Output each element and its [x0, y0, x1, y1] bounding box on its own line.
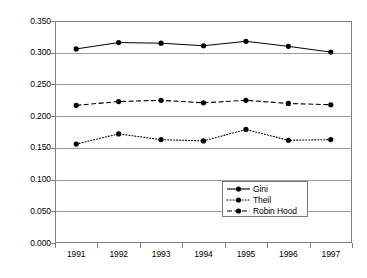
x-axis-tick-label: 1991 [53, 249, 99, 259]
x-axis-labels: 1991199219931994199519961997 [55, 249, 352, 263]
legend-label: Gini [251, 184, 268, 194]
legend-item-gini: Gini [226, 184, 304, 194]
x-axis-tick-mark [182, 243, 183, 248]
y-axis-tick-label: 0.250 [11, 80, 51, 89]
line-chart: 0.3500.3000.2500.2000.1500.1000.0500.000… [0, 0, 367, 278]
x-axis-tick-mark [310, 243, 311, 248]
gridline [56, 53, 351, 54]
y-axis-tick-mark [50, 180, 55, 181]
x-axis-tick-mark [225, 243, 226, 248]
y-axis-labels: 0.3500.3000.2500.2000.1500.1000.0500.000 [8, 21, 51, 243]
chart-legend: GiniTheilRobin Hood [222, 181, 308, 217]
x-axis-tick-mark [97, 243, 98, 248]
x-axis-tick-mark [55, 243, 56, 248]
y-axis-tick-mark [50, 53, 55, 54]
y-axis-tick-label: 0.200 [11, 112, 51, 121]
y-axis-tick-mark [50, 211, 55, 212]
gridline [56, 116, 351, 117]
legend-label: Theil [251, 195, 271, 205]
y-axis-tick-label: 0.000 [11, 239, 51, 248]
x-axis-tick-mark [267, 243, 268, 248]
y-axis-tick-mark [50, 84, 55, 85]
gridline [56, 148, 351, 149]
legend-key-swatch [226, 195, 251, 205]
legend-label: Robin Hood [251, 206, 297, 216]
x-axis-tick-label: 1994 [181, 249, 227, 259]
legend-item-theil: Theil [226, 195, 304, 205]
y-axis-tick-mark [50, 116, 55, 117]
y-axis-tick-mark [50, 21, 55, 22]
x-axis-tick-mark [140, 243, 141, 248]
y-axis-tick-label: 0.350 [11, 17, 51, 26]
y-axis-tick-mark [50, 148, 55, 149]
x-axis-tick-mark [352, 243, 353, 248]
y-axis-tick-label: 0.150 [11, 143, 51, 152]
gridline [56, 84, 351, 85]
x-axis-tick-label: 1992 [96, 249, 142, 259]
y-axis-tick-label: 0.100 [11, 175, 51, 184]
y-axis-tick-label: 0.050 [11, 207, 51, 216]
legend-key-swatch [226, 206, 251, 216]
legend-item-robin-hood: Robin Hood [226, 206, 304, 216]
x-axis-tick-label: 1997 [308, 249, 354, 259]
x-axis-tick-label: 1995 [223, 249, 269, 259]
x-axis-tick-label: 1996 [265, 249, 311, 259]
legend-key-swatch [226, 184, 251, 194]
x-axis-tick-label: 1993 [138, 249, 184, 259]
y-axis-tick-label: 0.300 [11, 48, 51, 57]
